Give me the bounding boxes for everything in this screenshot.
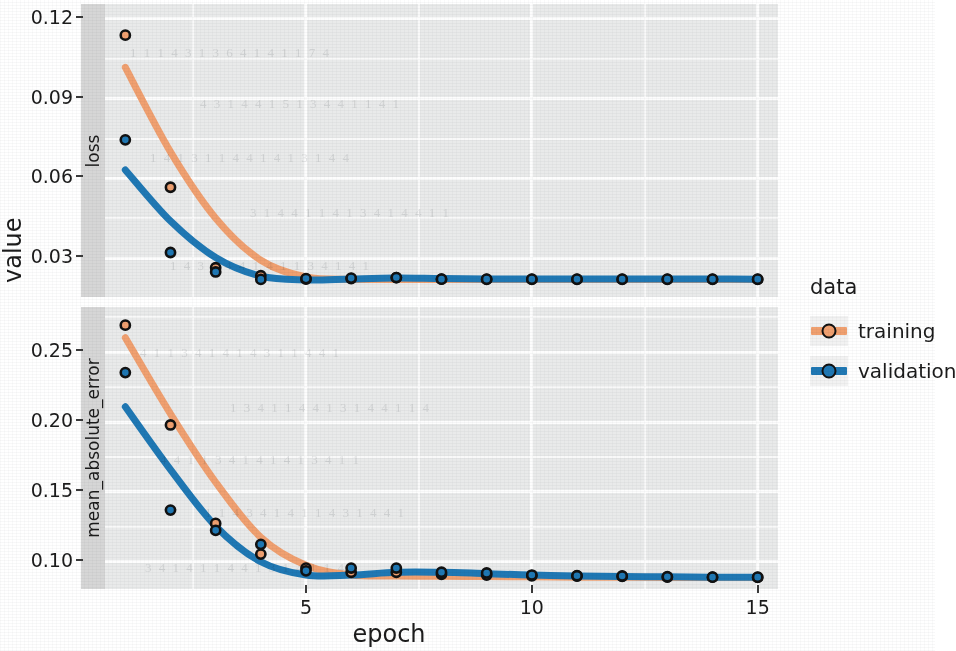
y-tick-mark bbox=[76, 349, 83, 351]
data-point-validation bbox=[663, 275, 672, 284]
data-point-validation bbox=[482, 568, 491, 577]
y-tick-label: 0.25 bbox=[31, 339, 73, 361]
y-tick-mark bbox=[76, 175, 83, 177]
series-layer bbox=[105, 307, 778, 589]
x-tick-mark bbox=[531, 585, 533, 593]
data-point-validation bbox=[166, 248, 175, 257]
data-point-validation bbox=[256, 275, 265, 284]
legend-key-swatch bbox=[810, 356, 848, 386]
legend-items: trainingvalidation bbox=[810, 313, 956, 389]
data-point-validation bbox=[121, 368, 130, 377]
y-tick-label: 0.10 bbox=[31, 549, 73, 571]
legend-item-validation[interactable]: validation bbox=[810, 353, 956, 389]
y-tick-label: 0.15 bbox=[31, 479, 73, 501]
data-point-validation bbox=[347, 273, 356, 282]
data-point-validation bbox=[753, 573, 762, 582]
data-point-validation bbox=[572, 571, 581, 580]
x-tick-mark bbox=[305, 585, 307, 593]
data-point-training bbox=[121, 31, 130, 40]
y-tick-mark bbox=[76, 489, 83, 491]
legend-point-glyph bbox=[822, 324, 837, 339]
data-point-training bbox=[121, 321, 130, 330]
x-axis-title: epoch bbox=[0, 620, 778, 648]
data-point-validation bbox=[166, 506, 175, 515]
legend-title: data bbox=[810, 275, 956, 299]
facet-strip-label: mean_absolute_error bbox=[83, 358, 103, 537]
y-tick-label: 0.20 bbox=[31, 409, 73, 431]
x-tick-label: 10 bbox=[512, 596, 552, 618]
series-layer bbox=[105, 4, 778, 297]
y-tick-mark bbox=[76, 419, 83, 421]
y-axis-title: value bbox=[0, 217, 27, 283]
smooth-line-training bbox=[125, 67, 757, 279]
x-tick-mark bbox=[757, 585, 759, 593]
data-point-validation bbox=[437, 568, 446, 577]
data-point-validation bbox=[572, 275, 581, 284]
data-point-validation bbox=[708, 573, 717, 582]
x-tick-label: 5 bbox=[286, 596, 326, 618]
data-point-validation bbox=[301, 274, 310, 283]
facet-strip-loss: loss bbox=[81, 4, 105, 297]
y-tick-label: 0.12 bbox=[31, 6, 73, 28]
data-point-validation bbox=[392, 273, 401, 282]
facet-strip-label: loss bbox=[83, 134, 103, 167]
y-tick-label: 0.03 bbox=[31, 245, 73, 267]
data-point-validation bbox=[753, 275, 762, 284]
facet-strip-mean_absolute_error: mean_absolute_error bbox=[81, 307, 105, 589]
y-tick-mark bbox=[76, 96, 83, 98]
y-tick-mark bbox=[76, 255, 83, 257]
data-point-validation bbox=[618, 275, 627, 284]
data-point-validation bbox=[211, 526, 220, 535]
legend-label: training bbox=[858, 319, 935, 343]
panel-loss bbox=[105, 4, 778, 297]
panel-mean_absolute_error bbox=[105, 307, 778, 589]
data-point-training bbox=[166, 420, 175, 429]
data-point-validation bbox=[482, 275, 491, 284]
legend-item-training[interactable]: training bbox=[810, 313, 956, 349]
legend-point-glyph bbox=[822, 364, 837, 379]
data-point-validation bbox=[211, 267, 220, 276]
legend-label: validation bbox=[858, 359, 956, 383]
data-point-validation bbox=[392, 563, 401, 572]
data-point-validation bbox=[256, 540, 265, 549]
data-point-training bbox=[256, 550, 265, 559]
data-point-validation bbox=[347, 563, 356, 572]
data-point-validation bbox=[301, 566, 310, 575]
y-tick-label: 0.06 bbox=[31, 165, 73, 187]
legend-key-swatch bbox=[810, 316, 848, 346]
data-point-validation bbox=[121, 135, 130, 144]
data-point-validation bbox=[708, 275, 717, 284]
y-tick-mark bbox=[76, 559, 83, 561]
data-point-validation bbox=[663, 572, 672, 581]
y-tick-mark bbox=[76, 16, 83, 18]
data-point-training bbox=[166, 183, 175, 192]
data-point-validation bbox=[527, 570, 536, 579]
data-point-validation bbox=[527, 275, 536, 284]
legend: data trainingvalidation bbox=[810, 275, 956, 393]
smooth-line-training bbox=[125, 338, 757, 578]
x-tick-label: 15 bbox=[738, 596, 778, 618]
y-tick-label: 0.09 bbox=[31, 86, 73, 108]
data-point-validation bbox=[618, 571, 627, 580]
data-point-validation bbox=[437, 275, 446, 284]
